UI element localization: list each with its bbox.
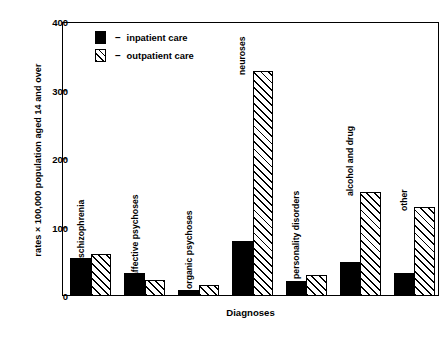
- bar-inpatient: [340, 262, 361, 296]
- bar-inpatient: [394, 273, 415, 296]
- legend-item-inpatient: – inpatient care: [95, 30, 194, 45]
- category-label: affective psychoses: [130, 195, 140, 278]
- category-label: other: [399, 189, 409, 211]
- legend-label-outpatient: outpatient care: [127, 50, 194, 61]
- bar-outpatient: [91, 254, 112, 296]
- bar-group: [394, 22, 435, 296]
- bar-outpatient: [145, 280, 166, 296]
- chart-legend: – inpatient care – outpatient care: [95, 30, 194, 66]
- bar-inpatient: [286, 281, 307, 296]
- category-label: neuroses: [237, 37, 247, 76]
- category-label: personality disorders: [291, 191, 301, 279]
- legend-dash: –: [115, 51, 121, 61]
- bar-outpatient: [414, 207, 435, 296]
- category-label: alcohol and drug: [345, 126, 355, 196]
- category-label: schizophrenia: [76, 199, 86, 257]
- legend-item-outpatient: – outpatient care: [95, 48, 194, 63]
- bar-outpatient: [306, 275, 327, 296]
- x-axis-label: Diagnoses: [62, 307, 439, 318]
- bar-outpatient: [199, 285, 220, 296]
- bar-outpatient: [253, 71, 274, 296]
- category-label: organic psychoses: [184, 210, 194, 289]
- bar-inpatient: [232, 241, 253, 296]
- legend-swatch-inpatient-icon: [95, 31, 106, 44]
- legend-label-inpatient: inpatient care: [127, 32, 188, 43]
- legend-swatch-outpatient-icon: [95, 49, 106, 62]
- bar-outpatient: [360, 192, 381, 296]
- legend-dash: –: [115, 33, 121, 43]
- bar-inpatient: [70, 258, 91, 296]
- bar-inpatient: [124, 273, 145, 296]
- bar-chart-figure: rates × 100,000 population aged 14 and o…: [0, 0, 448, 338]
- bar-inpatient: [178, 290, 199, 296]
